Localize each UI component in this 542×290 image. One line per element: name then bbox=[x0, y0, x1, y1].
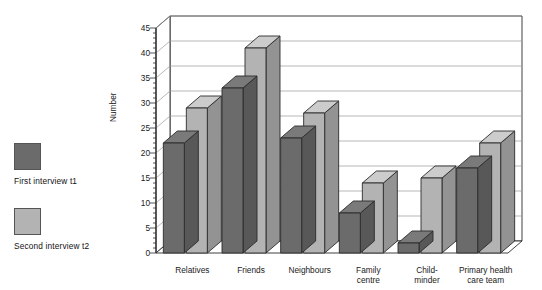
bar-front-First interview t1 bbox=[222, 88, 243, 253]
bar-front-First interview t1 bbox=[398, 243, 419, 253]
bar-chart-figure: First interview t1 Second interview t2 N… bbox=[0, 0, 542, 290]
bar-side-Second interview t2 bbox=[501, 131, 515, 253]
plot-area: Number 051015202530354045 RelativesFrien… bbox=[110, 10, 540, 285]
legend-swatch-t2 bbox=[14, 208, 41, 235]
x-tick-label: Primary health care team bbox=[441, 265, 531, 286]
bar-side-First interview t1 bbox=[184, 131, 198, 253]
chart-canvas bbox=[110, 10, 540, 285]
bar-side-Second interview t2 bbox=[325, 101, 339, 253]
bar-side-First interview t1 bbox=[478, 156, 492, 253]
bar-side-Second interview t2 bbox=[442, 166, 456, 253]
bar-side-Second interview t2 bbox=[383, 171, 397, 253]
bar-front-First interview t1 bbox=[163, 143, 184, 253]
bar-side-First interview t1 bbox=[243, 76, 257, 253]
bar-side-First interview t1 bbox=[302, 126, 316, 253]
bar-front-First interview t1 bbox=[457, 168, 478, 253]
bar-front-First interview t1 bbox=[281, 138, 302, 253]
bar-side-Second interview t2 bbox=[207, 96, 221, 253]
bar-front-First interview t1 bbox=[339, 213, 360, 253]
legend-swatch-t1 bbox=[14, 143, 41, 170]
bar-side-Second interview t2 bbox=[266, 36, 280, 253]
